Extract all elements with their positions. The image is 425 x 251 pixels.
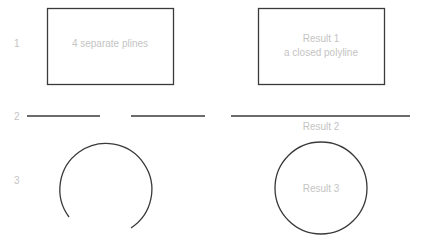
result3-label: Result 3 <box>303 183 340 194</box>
open-arc <box>60 143 152 228</box>
result2-label: Result 2 <box>303 121 340 132</box>
row-number-1: 1 <box>14 38 20 49</box>
result1-sublabel: a closed polyline <box>284 47 358 58</box>
result1-label: Result 1 <box>303 33 340 44</box>
pline-join-diagram: 1 4 separate plines Result 1 a closed po… <box>0 0 425 251</box>
row-number-2: 2 <box>14 111 20 122</box>
row-number-3: 3 <box>14 175 20 186</box>
row1-left-label: 4 separate plines <box>72 38 148 49</box>
